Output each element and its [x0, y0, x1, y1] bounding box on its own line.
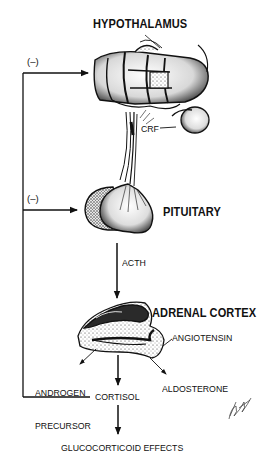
hypothalamus-illustration: [94, 35, 209, 133]
pituitary-label: PITUITARY: [163, 206, 221, 218]
aldosterone-arrow: [150, 358, 166, 374]
artist-signature: [229, 398, 251, 419]
androgen-precursor-label: ANDROGEN PRECURSOR: [35, 365, 91, 442]
feedback-negative-label-pituitary: (–): [27, 194, 39, 204]
glucocorticoid-effects-label: GLUCOCORTICOID EFFECTS: [61, 443, 183, 453]
androgen-arrow: [80, 349, 96, 364]
feedback-loop: [23, 73, 90, 397]
angiotensin-label: ANGIOTENSIN: [172, 333, 232, 343]
aldosterone-label: ALDOSTERONE: [162, 384, 228, 394]
feedback-negative-label-hypothalamus: (–): [27, 57, 39, 67]
crf-connector: [160, 127, 176, 128]
pituitary-illustration: [85, 184, 153, 233]
androgen-precursor-line2: PRECURSOR: [35, 420, 91, 431]
androgen-precursor-line1: ANDROGEN: [35, 387, 91, 398]
crf-label: CRF: [141, 124, 159, 134]
adrenal-cortex-label: ADRENAL CORTEX: [152, 307, 256, 319]
cortisol-label: CORTISOL: [95, 392, 140, 402]
pituitary-stalk: [120, 110, 154, 186]
hypothalamus-label: HYPOTHALAMUS: [93, 18, 187, 30]
acth-label: ACTH: [122, 258, 146, 268]
